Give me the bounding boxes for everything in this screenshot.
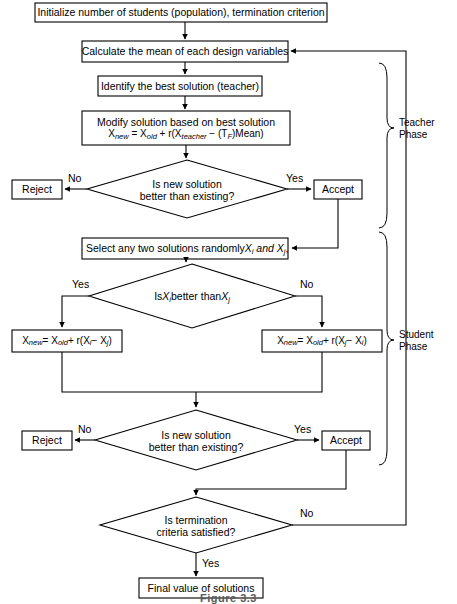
diamond-student-compare bbox=[89, 264, 295, 328]
phase-label-student: Student Phase bbox=[399, 329, 445, 353]
figure-caption: Figure 3.3 bbox=[0, 592, 457, 604]
brace-teacher-phase bbox=[379, 63, 394, 228]
diamond-teacher-accept bbox=[87, 160, 287, 218]
edge-label-accept-yes: Yes bbox=[294, 423, 311, 435]
edge-student-no-to-formula-right bbox=[295, 296, 322, 327]
phase-student-line2: Phase bbox=[399, 341, 427, 352]
edge-formula-right-down bbox=[196, 352, 322, 392]
box-calculate-mean bbox=[82, 41, 288, 62]
phase-student-line1: Student bbox=[399, 329, 433, 340]
edge-label-student-yes: Yes bbox=[72, 278, 89, 290]
phase-teacher-line2: Phase bbox=[399, 129, 427, 140]
box-reject-teacher bbox=[12, 180, 62, 199]
box-accept-teacher bbox=[314, 180, 362, 199]
box-formula-left bbox=[12, 330, 122, 352]
edge-label-termination-no: No bbox=[300, 507, 313, 519]
edge-label-accept-no: No bbox=[78, 423, 91, 435]
phase-label-teacher: Teacher Phase bbox=[399, 117, 445, 141]
diamond-termination bbox=[100, 497, 292, 553]
box-accept-student bbox=[322, 431, 370, 450]
box-select-two bbox=[82, 238, 288, 259]
box-reject-student bbox=[22, 431, 72, 450]
diamond-student-accept bbox=[95, 410, 297, 470]
edge-label-termination-yes: Yes bbox=[202, 557, 219, 569]
box-modify-solution bbox=[82, 111, 290, 145]
edge-label-student-no: No bbox=[300, 278, 313, 290]
edge-label-teacher-no: No bbox=[68, 172, 81, 184]
box-initialize bbox=[35, 3, 327, 22]
box-identify-best bbox=[98, 76, 262, 96]
edge-label-teacher-yes: Yes bbox=[286, 172, 303, 184]
box-formula-right bbox=[262, 330, 382, 352]
flowchart-canvas: Initialize number of students (populatio… bbox=[0, 0, 457, 604]
edge-student-yes-to-formula-left bbox=[62, 296, 89, 327]
flowchart-svg bbox=[0, 0, 457, 604]
edge-formula-left-down bbox=[62, 352, 196, 392]
edge-accept-teacher-to-select bbox=[292, 199, 338, 248]
phase-teacher-line1: Teacher bbox=[399, 117, 435, 128]
